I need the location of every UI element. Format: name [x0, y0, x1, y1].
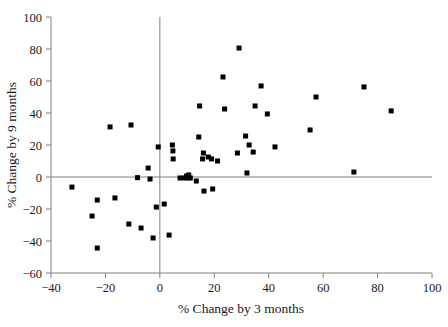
y-tick-label: 0	[36, 171, 42, 185]
data-point	[272, 144, 277, 149]
data-point	[95, 198, 100, 203]
plot-canvas: −40−20020406080100 −60−40−20020406080100…	[0, 0, 448, 327]
data-point	[215, 159, 220, 164]
data-point	[243, 134, 248, 139]
data-point	[167, 233, 172, 238]
y-tick-label: 60	[30, 75, 43, 89]
data-point	[135, 175, 140, 180]
data-point	[247, 143, 252, 148]
data-point	[156, 144, 161, 149]
y-tick-label: −40	[22, 235, 42, 249]
data-point	[126, 222, 131, 227]
data-point	[389, 108, 394, 113]
data-point	[201, 189, 206, 194]
data-point	[200, 156, 205, 161]
data-point	[209, 156, 214, 161]
x-tick-label: 0	[157, 281, 163, 295]
data-point	[90, 214, 95, 219]
x-tick-label: 20	[208, 281, 221, 295]
data-point-series	[69, 46, 393, 251]
data-point	[170, 143, 175, 148]
data-point	[314, 95, 319, 100]
data-point	[222, 107, 227, 112]
data-point	[259, 83, 264, 88]
x-tick-label: 100	[423, 281, 442, 295]
y-axis-ticks	[46, 17, 51, 273]
x-axis-tick-labels: −40−20020406080100	[41, 281, 441, 295]
x-axis-ticks	[51, 273, 432, 278]
data-point	[171, 156, 176, 161]
data-point	[188, 175, 193, 180]
data-point	[361, 84, 366, 89]
y-tick-label: 40	[30, 107, 43, 121]
data-point	[162, 202, 167, 207]
y-tick-label: −20	[22, 203, 42, 217]
y-tick-label: 100	[23, 11, 42, 25]
x-axis-title: % Change by 3 months	[178, 301, 304, 316]
data-point	[308, 127, 313, 132]
data-point	[146, 166, 151, 171]
data-point	[108, 124, 113, 129]
data-point	[148, 177, 153, 182]
data-point	[201, 151, 206, 156]
axes-group	[51, 17, 432, 273]
data-point	[170, 148, 175, 153]
y-axis-title: % Change by 9 months	[4, 82, 19, 208]
x-tick-label: 60	[317, 281, 330, 295]
y-tick-label: 20	[30, 139, 43, 153]
data-point	[69, 185, 74, 190]
data-point	[151, 235, 156, 240]
data-point	[351, 170, 356, 175]
x-tick-label: 80	[371, 281, 384, 295]
data-point	[253, 103, 258, 108]
data-point	[196, 135, 201, 140]
data-point	[244, 171, 249, 176]
data-point	[235, 151, 240, 156]
data-point	[112, 195, 117, 200]
data-point	[237, 46, 242, 51]
y-tick-label: −60	[22, 267, 42, 281]
scatter-plot-figure: −40−20020406080100 −60−40−20020406080100…	[0, 0, 448, 327]
data-point	[95, 246, 100, 251]
data-point	[197, 103, 202, 108]
x-tick-label: −20	[96, 281, 116, 295]
y-tick-label: 80	[30, 43, 43, 57]
data-point	[154, 205, 159, 210]
data-point	[251, 150, 256, 155]
data-point	[210, 187, 215, 192]
data-point	[139, 226, 144, 231]
x-tick-label: 40	[262, 281, 275, 295]
y-axis-tick-labels: −60−40−20020406080100	[22, 11, 42, 281]
data-point	[129, 123, 134, 128]
data-point	[265, 111, 270, 116]
reference-lines	[51, 17, 432, 273]
x-tick-label: −40	[41, 281, 61, 295]
data-point	[220, 75, 225, 80]
data-point	[194, 179, 199, 184]
